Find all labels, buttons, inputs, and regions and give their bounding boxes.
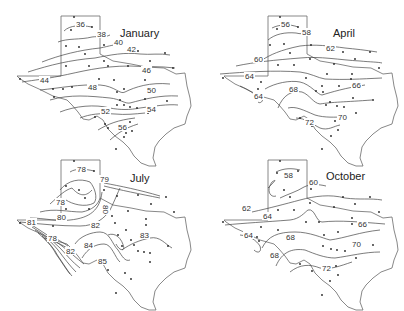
contour-label: 78	[56, 198, 65, 207]
contour-label: 72	[322, 264, 331, 273]
map-title-april: April	[333, 27, 355, 39]
contour-label: 83	[140, 231, 149, 240]
contour-label: 60	[254, 55, 263, 64]
contour-label: 52	[101, 107, 110, 116]
contour-label: 48	[88, 83, 97, 92]
contour-label: 46	[142, 66, 151, 75]
contour-label: 60	[309, 178, 318, 187]
contour-label: 56	[281, 20, 290, 29]
contour-label: 64	[254, 92, 263, 101]
contour-label: 36	[76, 20, 85, 29]
map-panel-january: January 36384042	[17, 16, 191, 166]
contour-label: 78	[48, 234, 57, 243]
contour-label: 50	[147, 86, 156, 95]
contour-label: 81	[27, 218, 36, 227]
contour-label: 64	[244, 231, 253, 240]
contour-label: 56	[118, 123, 127, 132]
contour-label: 84	[84, 241, 93, 250]
contour-label: 40	[114, 38, 123, 47]
texas-temperature-maps-figure: January 36384042	[0, 0, 404, 311]
contour-label: 79	[100, 175, 109, 184]
contour-label: 42	[127, 45, 136, 54]
contour-label: 44	[40, 76, 49, 85]
map-panel-october: October 58606264646668687072	[222, 160, 398, 310]
contour-label: 58	[284, 171, 293, 180]
contour-label: 68	[270, 251, 279, 260]
contour-label: 66	[352, 81, 361, 90]
contour-label: 38	[97, 30, 106, 39]
contour-label: 70	[352, 240, 361, 249]
contour-label: 82	[91, 221, 100, 230]
contour-label: 62	[242, 204, 251, 213]
contour-label: 54	[147, 105, 156, 114]
contour-label: 80	[101, 205, 110, 214]
contour-label: 72	[305, 118, 314, 127]
map-panel-july: July	[17, 160, 191, 310]
map-title-july: July	[130, 172, 150, 184]
contour-label: 85	[98, 257, 107, 266]
contour-label: 64	[245, 72, 254, 81]
contour-label: 78	[77, 165, 86, 174]
map-title-january: January	[120, 27, 160, 39]
contour-label: 82	[66, 247, 75, 256]
contour-label: 64	[263, 212, 272, 221]
contour-label: 68	[289, 85, 298, 94]
contour-label: 80	[57, 213, 66, 222]
contour-label: 62	[326, 44, 335, 53]
contour-label: 58	[302, 28, 311, 37]
map-panel-april: April 56586062646466687072	[220, 16, 398, 166]
contour-label: 70	[338, 113, 347, 122]
map-title-october: October	[326, 170, 365, 182]
contour-label: 66	[358, 220, 367, 229]
contour-label: 68	[286, 233, 295, 242]
